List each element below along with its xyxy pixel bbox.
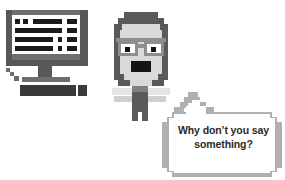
bubble-border-left xyxy=(162,122,169,168)
screen-text-lines xyxy=(12,15,80,54)
screen-text-bar xyxy=(67,46,77,51)
screen-text-bar xyxy=(58,46,62,51)
right-eye xyxy=(151,47,156,52)
right-leg xyxy=(142,112,148,121)
screen-text-bar xyxy=(67,37,77,42)
left-arm xyxy=(114,96,132,102)
screen-text-bar xyxy=(15,37,53,42)
speech-bubble: Why don’t you say something? xyxy=(162,92,285,180)
keyboard xyxy=(20,85,76,96)
glasses-bridge xyxy=(138,44,144,48)
left-eye xyxy=(125,47,130,52)
cursor-icon-3 xyxy=(14,76,19,81)
monitor-stand-neck xyxy=(38,66,52,77)
screen-text-bar xyxy=(15,28,62,33)
mouse xyxy=(78,85,87,96)
bubble-fill-top xyxy=(174,114,270,120)
speech-bubble-text: Why don’t you say something? xyxy=(170,123,277,151)
screen-text-bar xyxy=(67,19,77,24)
screen-text-bar xyxy=(23,19,28,24)
monitor-base-band xyxy=(12,60,80,65)
open-mouth xyxy=(131,61,151,72)
illustration-scene: Why don’t you say something? xyxy=(0,0,285,180)
screen-text-bar xyxy=(67,28,77,33)
left-leg xyxy=(132,112,138,121)
torso xyxy=(132,92,148,112)
desktop-computer xyxy=(0,0,100,100)
bubble-tail-fill-2 xyxy=(186,106,206,114)
monitor-stand-base xyxy=(22,77,70,82)
bubble-fill-bottom xyxy=(174,168,270,173)
screen-text-bar xyxy=(58,37,62,42)
screen-text-bar xyxy=(15,19,20,24)
screen-text-bar xyxy=(33,19,62,24)
screen-text-bar xyxy=(15,46,53,51)
